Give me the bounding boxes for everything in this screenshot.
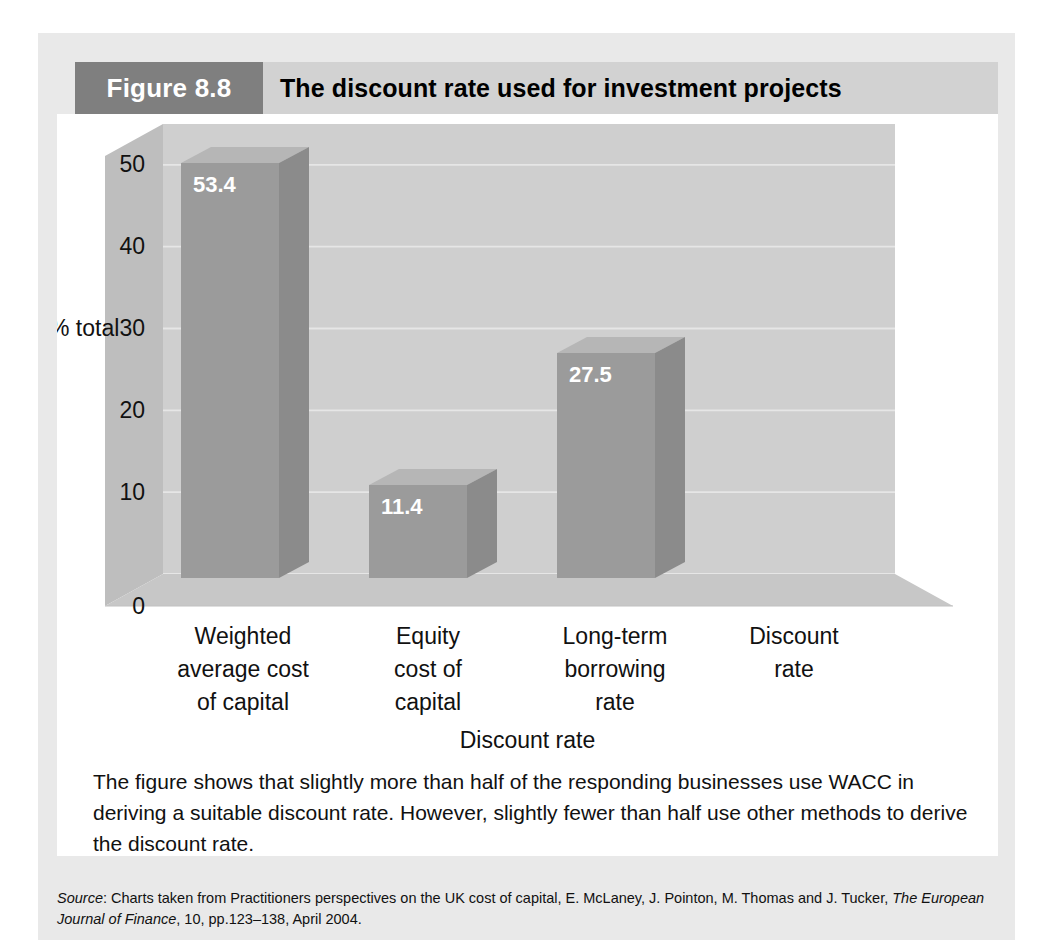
y-tick-0: 0: [132, 593, 145, 619]
y-tick-20: 20: [119, 397, 145, 423]
y-axis-title: % total: [57, 315, 119, 341]
y-tick-40: 40: [119, 233, 145, 259]
bar-3-side: [655, 337, 685, 578]
bar-chart: 53.4 11.4 27.5 50: [57, 114, 998, 734]
figure-content-card: 53.4 11.4 27.5 50: [57, 114, 998, 856]
svg-text:of capital: of capital: [197, 689, 289, 715]
svg-text:Discount: Discount: [749, 623, 839, 649]
bar-2-value-label: 11.4: [381, 494, 423, 519]
figure-title-bar: Figure 8.8 The discount rate used for in…: [75, 62, 998, 114]
bar-weighted-average-cost-of-capital[interactable]: 53.4: [181, 147, 309, 578]
figure-caption: The figure shows that slightly more than…: [93, 766, 973, 859]
bar-1-value-label: 53.4: [193, 172, 237, 197]
svg-text:average cost: average cost: [177, 656, 309, 682]
y-tick-30: 30: [119, 315, 145, 341]
figure-number-badge: Figure 8.8: [75, 62, 263, 114]
bar-2-side: [467, 469, 497, 578]
bar-equity-cost-of-capital[interactable]: 11.4: [369, 469, 497, 578]
x-category-3: Long-term borrowing rate: [563, 623, 668, 715]
x-category-2: Equity cost of capital: [394, 623, 462, 715]
svg-text:Equity: Equity: [396, 623, 460, 649]
svg-text:capital: capital: [395, 689, 461, 715]
chart-svg: 53.4 11.4 27.5 50: [57, 114, 998, 734]
source-text-after-journal: , 10, pp.123–138, April 2004.: [176, 911, 361, 927]
source-label: Source: [57, 890, 103, 906]
x-category-1: Weighted average cost of capital: [177, 623, 309, 715]
figure-title-text: The discount rate used for investment pr…: [280, 62, 842, 114]
svg-text:rate: rate: [774, 656, 814, 682]
svg-text:Weighted: Weighted: [195, 623, 292, 649]
plot-floor: [105, 574, 953, 606]
svg-text:rate: rate: [595, 689, 635, 715]
plot-left-wall: [105, 124, 163, 606]
y-tick-10: 10: [119, 479, 145, 505]
svg-text:Long-term: Long-term: [563, 623, 668, 649]
source-note: Source: Charts taken from Practitioners …: [57, 888, 1007, 930]
source-text-before-journal: Charts taken from Practitioners perspect…: [111, 890, 892, 906]
bar-long-term-borrowing-rate[interactable]: 27.5: [557, 337, 685, 578]
x-axis-title-wrap: Discount rate: [57, 727, 998, 754]
y-tick-50: 50: [119, 151, 145, 177]
svg-text:borrowing: borrowing: [565, 656, 666, 682]
bar-1-front: [181, 163, 279, 578]
bar-1-side: [279, 147, 309, 578]
bar-3-value-label: 27.5: [569, 362, 612, 387]
x-axis-category-labels: Weighted average cost of capital Equity …: [177, 623, 839, 715]
source-separator: :: [103, 890, 111, 906]
x-axis-title: Discount rate: [460, 727, 596, 753]
x-category-4: Discount rate: [749, 623, 839, 682]
svg-text:cost of: cost of: [394, 656, 462, 682]
